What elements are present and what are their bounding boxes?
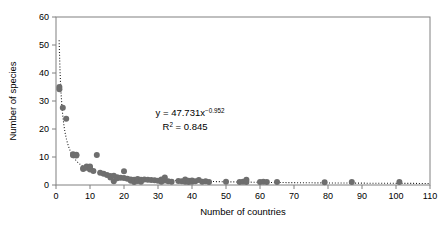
data-point [60,105,66,111]
y-axis-tick-label: 10 [39,152,49,162]
data-point [223,179,229,185]
x-axis-tick-label: 30 [153,191,163,201]
data-point [206,179,212,185]
x-axis-tick-label: 60 [255,191,265,201]
x-axis-tick-label: 20 [119,191,129,201]
y-axis-title: Number of species [7,61,18,140]
data-point [169,179,175,185]
data-point [264,179,270,185]
x-axis-tick-label: 80 [323,191,333,201]
data-point [396,179,402,185]
data-point [322,179,328,185]
data-point [56,86,62,92]
y-axis-tick-label: 40 [39,68,49,78]
plot-frame [56,17,430,185]
y-axis-tick-label: 20 [39,124,49,134]
data-point [90,168,96,174]
data-point [94,152,100,158]
data-point [243,179,249,185]
scatter-plot-figure: 01020304050607080901001100102030405060Nu… [0,0,445,226]
x-axis-tick-label: 90 [357,191,367,201]
x-axis-tick-label: 10 [85,191,95,201]
equation-annotation: y = 47.731x−0.952 [156,107,225,119]
x-axis-tick-label: 110 [423,191,437,201]
data-point [274,179,280,185]
x-axis-tick-label: 70 [289,191,299,201]
regression-trendline [59,40,430,183]
chart-canvas: 01020304050607080901001100102030405060Nu… [0,0,445,226]
y-axis-tick-label: 0 [44,180,49,190]
x-axis-tick-label: 100 [388,191,403,201]
x-axis-tick-label: 50 [221,191,231,201]
data-point [73,153,79,159]
y-axis-tick-label: 60 [39,12,49,22]
data-point [63,116,69,122]
r-squared-annotation: R2 = 0.845 [163,121,208,133]
x-axis-tick-label: 40 [187,191,197,201]
data-point [121,168,127,174]
x-axis-title: Number of countries [200,206,286,217]
y-axis-tick-label: 50 [39,40,49,50]
y-axis-tick-label: 30 [39,96,49,106]
data-point [349,179,355,185]
x-axis-tick-label: 0 [53,191,58,201]
